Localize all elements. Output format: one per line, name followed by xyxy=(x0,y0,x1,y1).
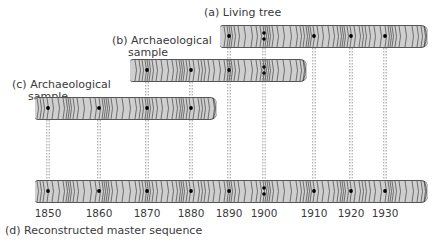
tree-ring-bar-archaeological-b xyxy=(130,59,307,82)
tree-ring-bar-archaeological-c xyxy=(35,97,217,120)
year-label: 1850 xyxy=(35,207,62,219)
tree-ring-bar-master-sequence xyxy=(35,180,428,203)
year-label: 1880 xyxy=(178,207,205,219)
label-master-sequence: (d) Reconstructed master sequence xyxy=(5,224,202,237)
year-label: 1870 xyxy=(134,207,161,219)
label-archaeological-sample-b-line2: sample xyxy=(128,46,168,59)
year-label: 1860 xyxy=(86,207,113,219)
year-label: 1900 xyxy=(251,207,278,219)
year-label: 1890 xyxy=(216,207,243,219)
year-label: 1920 xyxy=(338,207,365,219)
year-label: 1910 xyxy=(301,207,328,219)
year-label: 1930 xyxy=(372,207,399,219)
label-living-tree: (a) Living tree xyxy=(204,6,281,19)
tree-ring-bar-living-tree xyxy=(220,25,428,48)
